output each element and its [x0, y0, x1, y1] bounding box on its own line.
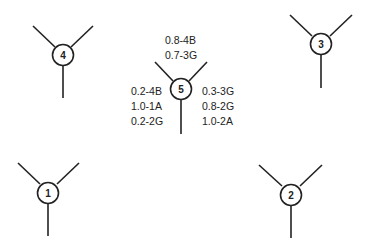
annotation: 1.0-1A [131, 99, 163, 114]
node-3 [290, 15, 352, 88]
node-5-top-annotations: 0.8-4B 0.7-3G [165, 33, 197, 63]
node-2 [259, 165, 322, 238]
node-4-label: 4 [60, 50, 66, 61]
node-1-label: 1 [45, 188, 51, 199]
node-2-label: 2 [288, 190, 294, 201]
node-3-label: 3 [318, 39, 324, 50]
annotation: 0.2-4B [131, 84, 163, 99]
node-5-left-annotations: 0.2-4B 1.0-1A 0.2-2G [131, 84, 163, 129]
node-5-label: 5 [178, 84, 184, 95]
annotation: 0.7-3G [165, 48, 197, 63]
node-4 [33, 26, 93, 98]
annotation: 1.0-2A [202, 114, 234, 129]
node-5-right-annotations: 0.3-3G 0.8-2G 1.0-2A [202, 84, 234, 129]
annotation: 0.3-3G [202, 84, 234, 99]
annotation: 0.8-4B [165, 33, 197, 48]
annotation: 0.8-2G [202, 99, 234, 114]
node-1 [18, 163, 79, 236]
annotation: 0.2-2G [131, 114, 163, 129]
